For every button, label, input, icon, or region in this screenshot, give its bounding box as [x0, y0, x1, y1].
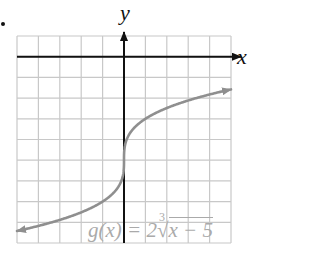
x-axis-label: x	[237, 44, 247, 70]
formula-prefix: g(x) = 2	[88, 218, 157, 242]
radical-index: 3	[159, 210, 165, 225]
radicand: x − 5	[169, 217, 214, 242]
function-label: g(x) = 23√x − 5	[88, 218, 213, 243]
y-axis-label: y	[120, 0, 130, 26]
